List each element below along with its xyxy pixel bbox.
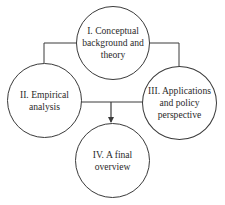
node-empirical-analysis: II. Empirical analysis xyxy=(7,63,82,138)
node-conceptual-background: I. Conceptual background and theory xyxy=(76,6,150,80)
node-final-overview: IV. A final overview xyxy=(75,123,150,198)
connector-i-to-iii xyxy=(150,43,179,66)
connector-i-to-ii xyxy=(44,43,77,63)
node-label: II. Empirical analysis xyxy=(20,89,69,113)
node-label: IV. A final overview xyxy=(93,149,133,173)
diagram: I. Conceptual background and theory II. … xyxy=(0,0,225,205)
node-applications-policy: III. Applications and policy perspective xyxy=(142,66,217,140)
node-label: I. Conceptual background and theory xyxy=(82,25,144,61)
node-label: III. Applications and policy perspective xyxy=(148,85,211,121)
